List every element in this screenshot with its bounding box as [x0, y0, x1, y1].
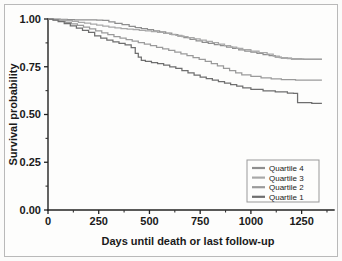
- y-axis-tick-labels: 0.000.250.500.751.00: [20, 13, 41, 216]
- survival-curve-figure: 0.000.250.500.751.00 025050075010001250 …: [0, 0, 342, 261]
- x-tick-label: 1000: [239, 215, 263, 227]
- y-tick-label: 0.50: [20, 108, 41, 120]
- legend-label-quartile-3: Quartile 3: [269, 174, 304, 183]
- survival-curves: [48, 19, 322, 103]
- x-axis-tick-labels: 025050075010001250: [45, 215, 314, 227]
- legend-label-quartile-4: Quartile 4: [269, 164, 304, 173]
- survival-plot: 0.000.250.500.751.00 025050075010001250 …: [0, 0, 342, 261]
- legend: Quartile 4Quartile 3Quartile 2Quartile 1: [247, 160, 319, 202]
- y-tick-label: 0.75: [20, 61, 41, 73]
- y-tick-label: 0.00: [20, 204, 41, 216]
- legend-label-quartile-2: Quartile 2: [269, 183, 304, 192]
- survival-curve-quartile-3: [48, 19, 322, 59]
- y-tick-label: 1.00: [20, 13, 41, 25]
- y-axis-title: Survival probability: [7, 63, 19, 166]
- y-tick-label: 0.25: [20, 156, 41, 168]
- x-tick-label: 1250: [289, 215, 313, 227]
- x-tick-label: 500: [140, 215, 158, 227]
- x-tick-label: 250: [90, 215, 108, 227]
- x-tick-label: 750: [191, 215, 209, 227]
- x-axis-title: Days until death or last follow-up: [102, 235, 275, 247]
- legend-label-quartile-1: Quartile 1: [269, 193, 304, 202]
- survival-curve-quartile-1: [48, 19, 322, 103]
- x-tick-label: 0: [45, 215, 51, 227]
